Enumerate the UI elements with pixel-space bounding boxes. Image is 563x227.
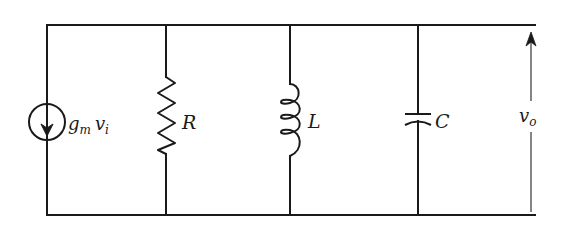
resistor-label: R — [181, 111, 196, 133]
output-voltage: vo — [519, 32, 536, 212]
resistor-zigzag-icon — [158, 77, 175, 154]
output-voltage-label: vo — [519, 105, 536, 129]
current-source-label: gmvi — [68, 113, 109, 137]
current-source: gmvi — [29, 25, 109, 215]
capacitor-label: C — [435, 110, 450, 132]
capacitor: C — [405, 25, 450, 215]
resistor: R — [158, 25, 196, 215]
inductor-label: L — [307, 110, 321, 132]
circuit-diagram: gmvi R L C vo — [0, 0, 563, 227]
inductor-coil-icon — [281, 84, 300, 156]
inductor: L — [281, 25, 321, 215]
